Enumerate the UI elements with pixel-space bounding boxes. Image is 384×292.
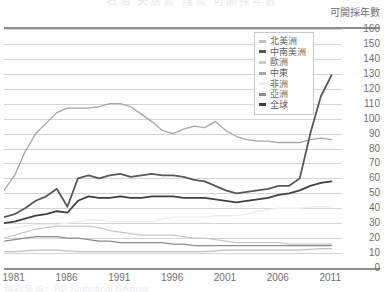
legend-item[interactable]: 中東 — [259, 68, 309, 79]
legend-swatch-icon — [259, 40, 266, 43]
y-tick-label: 100 — [363, 114, 380, 124]
y-axis-title: 可開採年數 — [330, 7, 380, 19]
legend-item[interactable]: 中南美洲 — [259, 47, 309, 58]
x-tick-label: 1991 — [108, 272, 130, 283]
legend-item[interactable]: 歐洲 — [259, 57, 309, 68]
y-tick-label: 50 — [369, 188, 380, 198]
y-tick-label: 120 — [363, 84, 380, 94]
legend-item[interactable]: 非洲 — [259, 78, 309, 89]
series-line — [4, 104, 331, 191]
y-tick-label: 30 — [369, 218, 380, 228]
x-tick-label: 1981 — [3, 272, 25, 283]
series-line — [4, 207, 331, 229]
legend-swatch-icon — [259, 50, 266, 53]
legend-swatch-icon — [259, 72, 266, 75]
cut-off-title: 石油 天然氣 煤炭 可開採年數 — [0, 0, 384, 9]
legend-swatch-icon — [259, 82, 266, 85]
series-line — [4, 181, 331, 223]
cut-off-caption: 資料來源：BP Statistical Review — [0, 285, 384, 292]
cut-off-title-text: 石油 天然氣 煤炭 可開採年數 — [0, 0, 384, 7]
legend-item[interactable]: 全球 — [259, 100, 309, 111]
series-line — [4, 237, 331, 246]
y-tick-label: 70 — [369, 158, 380, 168]
y-tick-label: 40 — [369, 203, 380, 213]
legend-label: 北美洲 — [270, 36, 297, 46]
y-tick-label: 110 — [364, 99, 380, 109]
legend-item[interactable]: 亞洲 — [259, 89, 309, 100]
x-tick-label: 1996 — [161, 272, 183, 283]
y-tick-label: 80 — [369, 144, 380, 154]
y-tick-label: 150 — [363, 39, 380, 49]
y-tick-label: 130 — [363, 69, 380, 79]
legend-swatch-icon — [259, 103, 266, 106]
x-tick-label: 1986 — [55, 272, 77, 283]
y-tick-label: 20 — [369, 233, 380, 243]
cut-off-caption-text: 資料來源：BP Statistical Review — [0, 285, 384, 292]
series-line — [4, 226, 331, 244]
legend-label: 亞洲 — [270, 89, 288, 99]
y-tick-label: 0 — [374, 263, 380, 273]
legend-item[interactable]: 北美洲 — [259, 36, 309, 47]
line-chart: 石油 天然氣 煤炭 可開採年數 可開採年數 160150140130120110… — [0, 0, 384, 292]
x-axis-line — [4, 268, 380, 270]
y-tick-label: 160 — [363, 24, 380, 34]
x-tick-label: 2006 — [267, 272, 289, 283]
x-tick-label: 2011 — [319, 272, 341, 283]
series-line — [4, 249, 331, 252]
legend-swatch-icon — [259, 61, 266, 64]
x-tick-label: 2001 — [214, 272, 236, 283]
legend-label: 中東 — [270, 68, 288, 78]
y-tick-label: 60 — [369, 173, 380, 183]
legend-label: 中南美洲 — [270, 47, 306, 57]
legend-label: 非洲 — [270, 79, 288, 89]
legend: 北美洲中南美洲歐洲中東非洲亞洲全球 — [254, 32, 314, 115]
y-tick-label: 140 — [363, 54, 380, 64]
y-tick-label: 10 — [369, 248, 380, 258]
y-tick-label: 90 — [369, 129, 380, 139]
legend-swatch-icon — [259, 93, 266, 96]
legend-label: 全球 — [270, 100, 288, 110]
legend-label: 歐洲 — [270, 57, 288, 67]
